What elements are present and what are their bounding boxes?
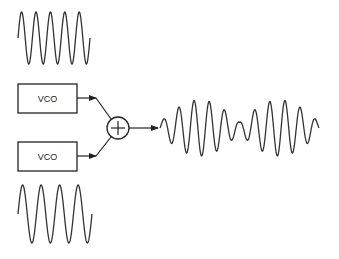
vco1-to-sum-line: [96, 98, 111, 119]
summing-junction: [107, 117, 129, 139]
top-sine-wave: [18, 12, 90, 64]
bottom-sine-wave: [18, 185, 92, 243]
vco-block-1: VCO: [18, 84, 77, 113]
vco-1-label: VCO: [38, 94, 58, 104]
output-beat-wave: [160, 101, 319, 156]
vco-2-label: VCO: [38, 152, 58, 162]
vco-mixer-diagram: VCO VCO: [0, 0, 339, 259]
vco2-to-sum-line: [96, 137, 111, 156]
vco-block-2: VCO: [18, 142, 77, 171]
